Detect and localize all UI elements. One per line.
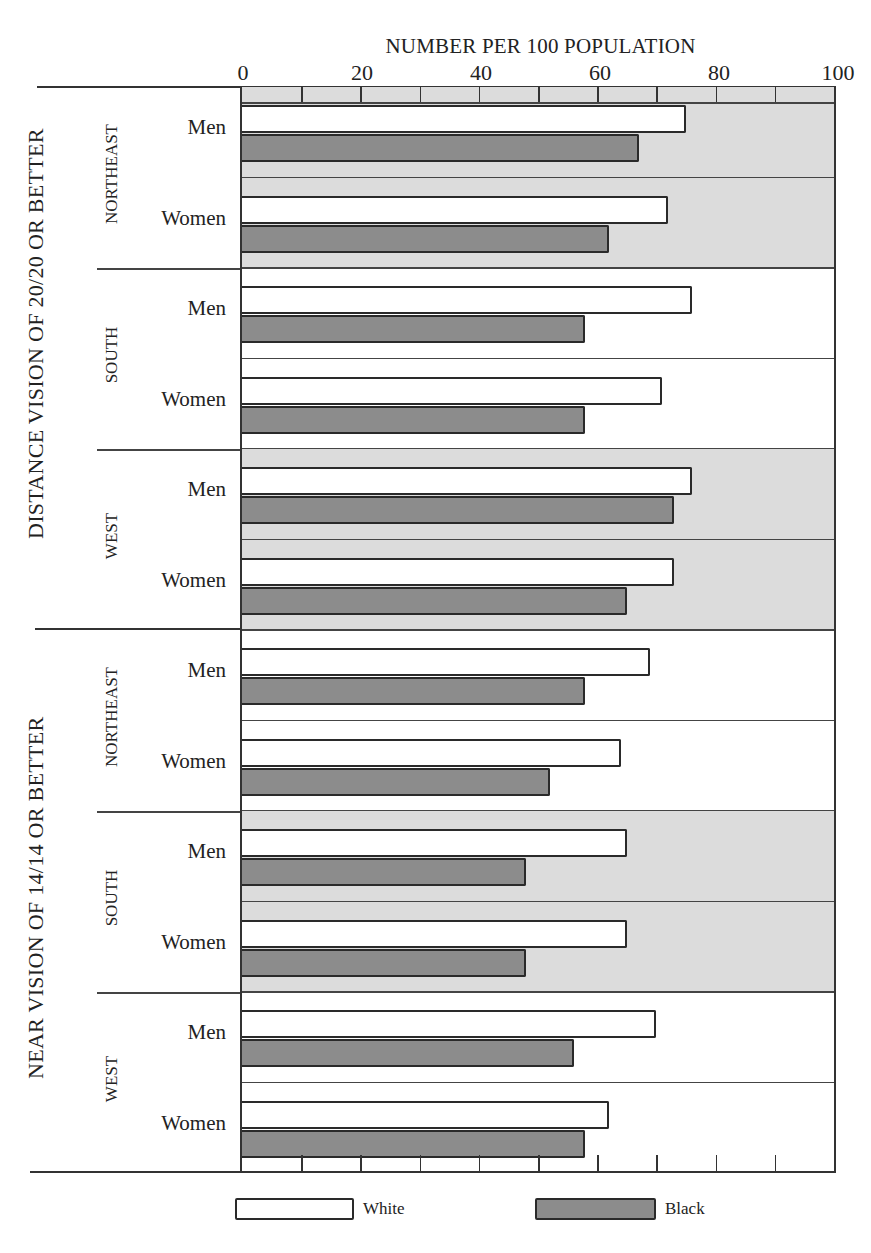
- row-label-women: Women: [136, 1111, 226, 1136]
- tick-band-line: [242, 102, 834, 104]
- section-divider: [35, 628, 240, 630]
- row-separator: [242, 991, 834, 993]
- bar-white: [242, 558, 674, 586]
- x-tick-mark: [360, 1155, 362, 1171]
- row-separator: [242, 720, 834, 722]
- x-tick-mark: [420, 87, 422, 103]
- x-tick-label: 0: [238, 60, 249, 86]
- row-label-men: Men: [136, 1020, 226, 1045]
- x-tick-mark: [301, 1155, 303, 1171]
- x-tick-mark: [716, 87, 718, 103]
- row-separator: [242, 539, 834, 541]
- bar-black: [242, 1039, 574, 1067]
- row-separator: [242, 177, 834, 179]
- row-label-men: Men: [136, 839, 226, 864]
- region-label-west: WEST: [102, 466, 124, 606]
- bar-black: [242, 768, 550, 796]
- bar-black: [242, 406, 585, 434]
- region-label-south: SOUTH: [102, 285, 124, 425]
- x-tick-mark: [656, 87, 658, 103]
- row-label-men: Men: [136, 296, 226, 321]
- x-tick-mark: [597, 87, 599, 103]
- row-label-women: Women: [136, 206, 226, 231]
- bar-white: [242, 377, 662, 405]
- plot-area: [240, 87, 836, 1173]
- row-separator: [242, 1082, 834, 1084]
- x-tick-mark: [479, 87, 481, 103]
- bar-white: [242, 648, 650, 676]
- section-label-distance: DISTANCE VISION OF 20/20 OR BETTER: [23, 179, 53, 539]
- bar-white: [242, 829, 627, 857]
- row-label-men: Men: [136, 477, 226, 502]
- bar-white: [242, 105, 686, 133]
- bar-black: [242, 315, 585, 343]
- x-tick-mark: [360, 87, 362, 103]
- x-tick-mark: [301, 87, 303, 103]
- row-label-women: Women: [136, 749, 226, 774]
- region-label-west: WEST: [102, 1009, 124, 1149]
- region-label-northeast: NORTHEAST: [102, 104, 124, 244]
- bar-white: [242, 920, 627, 948]
- x-axis-title: NUMBER PER 100 POPULATION: [243, 34, 838, 59]
- x-tick-mark: [538, 87, 540, 103]
- x-tick-mark: [420, 1155, 422, 1171]
- x-tick-mark: [597, 1155, 599, 1171]
- legend-label-black: Black: [665, 1199, 705, 1219]
- bar-black: [242, 1130, 585, 1158]
- row-label-women: Women: [136, 930, 226, 955]
- bottom-rule: [30, 1171, 240, 1173]
- legend-label-white: White: [363, 1199, 405, 1219]
- bar-white: [242, 467, 692, 495]
- row-label-women: Women: [136, 568, 226, 593]
- row-separator: [242, 901, 834, 903]
- x-tick-label: 100: [822, 60, 855, 86]
- region-label-south: SOUTH: [102, 828, 124, 968]
- x-tick-label: 40: [470, 60, 492, 86]
- x-tick-label: 60: [589, 60, 611, 86]
- bar-black: [242, 587, 627, 615]
- bar-white: [242, 739, 621, 767]
- bar-black: [242, 858, 526, 886]
- bar-black: [242, 949, 526, 977]
- bar-black: [242, 225, 609, 253]
- bar-white: [242, 1010, 656, 1038]
- row-separator: [242, 629, 834, 631]
- bar-white: [242, 1101, 609, 1129]
- region-label-northeast: NORTHEAST: [102, 647, 124, 787]
- row-separator: [242, 267, 834, 269]
- bar-black: [242, 134, 639, 162]
- bar-black: [242, 496, 674, 524]
- x-tick-mark: [775, 87, 777, 103]
- x-tick-mark: [656, 1155, 658, 1171]
- bar-black: [242, 677, 585, 705]
- x-tick-mark: [479, 1155, 481, 1171]
- x-tick-mark: [538, 1155, 540, 1171]
- bar-white: [242, 196, 668, 224]
- x-tick-label: 80: [708, 60, 730, 86]
- x-tick-mark: [775, 1155, 777, 1171]
- row-label-women: Women: [136, 387, 226, 412]
- region-separator: [97, 992, 240, 994]
- x-tick-mark: [716, 1155, 718, 1171]
- section-label-near: NEAR VISION OF 14/14 OR BETTER: [23, 719, 53, 1079]
- row-separator: [242, 358, 834, 360]
- row-label-men: Men: [136, 115, 226, 140]
- region-separator: [97, 268, 240, 270]
- region-separator: [97, 811, 240, 813]
- x-tick-label: 20: [351, 60, 373, 86]
- legend-swatch-black: [535, 1198, 656, 1220]
- region-separator: [97, 449, 240, 451]
- bar-white: [242, 286, 692, 314]
- legend-swatch-white: [235, 1198, 354, 1220]
- row-label-men: Men: [136, 658, 226, 683]
